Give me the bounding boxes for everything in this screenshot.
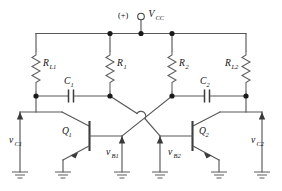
left-output-branch <box>17 96 62 172</box>
ground-symbol-q1-emitter <box>55 172 71 178</box>
rl1-zigzag-symbol <box>32 51 40 92</box>
node-dot-r1-top <box>107 31 112 36</box>
capacitor-c2 <box>172 90 246 103</box>
supply-terminal-circle-icon <box>138 13 145 20</box>
q1-emitter-lead <box>63 146 89 160</box>
r2-zigzag-symbol <box>168 51 176 92</box>
c2-subscript-label: 2 <box>207 81 211 88</box>
vc2-subscript-label: C2 <box>257 140 265 147</box>
right-output-branch <box>220 96 265 172</box>
q1-collector-lead <box>62 112 89 126</box>
q2-collector-lead <box>193 112 220 126</box>
vb1-symbol-label: v <box>106 146 111 157</box>
ground-symbol-vc2 <box>254 172 270 178</box>
cross-wire-a-lower <box>145 119 160 136</box>
q2-subscript-label: 2 <box>206 131 210 138</box>
vb1-subscript-label: B1 <box>112 152 119 159</box>
resistor-r2 <box>168 51 176 92</box>
vb2-arrow-head-icon <box>157 136 163 144</box>
rl1-symbol-label: R <box>42 57 49 68</box>
vb2-subscript-label: B2 <box>174 152 182 159</box>
r2-subscript-label: 2 <box>186 63 190 70</box>
rl1-subscript-label: L1 <box>49 63 57 70</box>
ground-symbol-q2-emitter <box>211 172 227 178</box>
vc1-subscript-label: C1 <box>15 140 23 147</box>
rl2-symbol-label: R <box>224 57 231 68</box>
r1-zigzag-symbol <box>106 51 114 92</box>
node-dot-vcc <box>138 31 143 36</box>
vb1-branch <box>119 136 125 172</box>
ground-symbol-vc1 <box>12 172 28 178</box>
node-dot-collector-right <box>243 93 248 98</box>
resistor-rl1 <box>32 51 40 92</box>
ground-symbol-vb1 <box>114 172 130 178</box>
r1-subscript-label: 1 <box>124 63 127 70</box>
cross-couple-left-to-right <box>110 96 160 136</box>
vc2-symbol-label: v <box>251 134 256 145</box>
rl2-zigzag-symbol <box>242 51 250 92</box>
cross-couple-right-to-left <box>122 96 172 136</box>
supply-polarity-label: (+) <box>118 11 129 20</box>
q1-emitter-arrow-icon <box>71 152 79 158</box>
vc2-arrow-head-icon <box>259 112 265 120</box>
vb2-branch <box>157 136 163 172</box>
q2-emitter-lead <box>193 146 219 160</box>
r2-symbol-label: R <box>178 57 185 68</box>
vc1-arrow-head-icon <box>17 112 23 120</box>
r1-symbol-label: R <box>116 57 123 68</box>
vc1-symbol-label: v <box>9 134 14 145</box>
transistor-q1 <box>62 112 122 172</box>
top-supply-rail <box>36 31 246 51</box>
schematic-canvas: (+) V CC R L1 R 1 <box>0 0 282 191</box>
capacitor-c1 <box>36 90 110 103</box>
node-dot-r2-top <box>169 31 174 36</box>
cross-wire-a-upper <box>110 96 137 114</box>
node-dot-collector-left <box>33 93 38 98</box>
supply-symbol-label: V <box>149 8 156 19</box>
node-dot-c2-r2 <box>169 93 174 98</box>
ground-symbol-vb2 <box>152 172 168 178</box>
vb1-arrow-head-icon <box>119 136 125 144</box>
q2-emitter-arrow-icon <box>204 152 212 158</box>
node-dot-c1-r1 <box>107 93 112 98</box>
supply-terminal-group <box>138 13 145 33</box>
transistor-q2 <box>160 112 220 172</box>
resistor-r1 <box>106 51 114 92</box>
resistor-rl2 <box>242 51 250 92</box>
supply-subscript-label: CC <box>156 14 165 21</box>
circuit-diagram: (+) V CC R L1 R 1 <box>0 0 282 191</box>
rl2-subscript-label: L2 <box>231 63 240 70</box>
q1-subscript-label: 1 <box>69 131 72 138</box>
cross-wire-b <box>122 96 172 136</box>
vb2-symbol-label: v <box>168 146 173 157</box>
c1-subscript-label: 1 <box>71 81 74 88</box>
